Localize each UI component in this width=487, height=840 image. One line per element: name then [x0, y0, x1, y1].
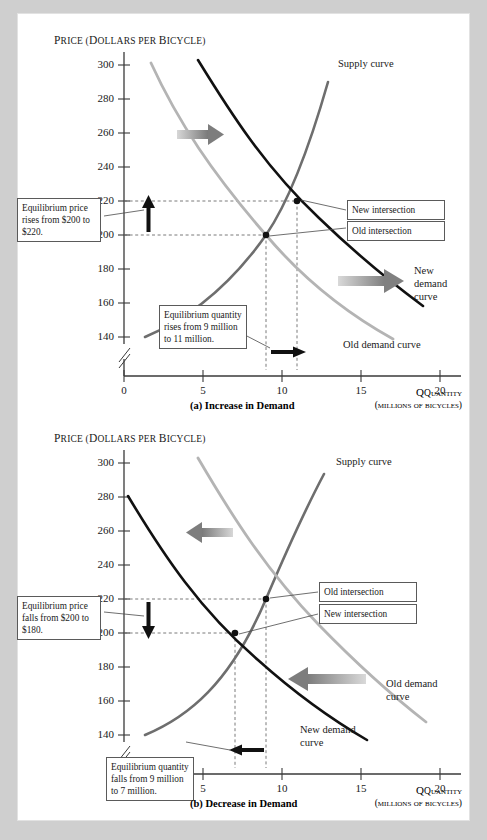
- panel-b-ytick-280: 280: [76, 490, 114, 503]
- panel-a-ytick-160: 160: [76, 296, 114, 309]
- panel-a-new-intersection-callout: New intersection: [347, 200, 445, 220]
- panel-b-old-intersection-callout: Old intersection: [319, 582, 417, 602]
- panel-a-ytick-300: 300: [76, 58, 114, 71]
- panel-b-guidelines: [124, 599, 266, 768]
- panel-decrease-in-demand: PRICE (DOLLARS PER BICYCLE): [18, 412, 469, 820]
- panel-a-xtick-5: 5: [183, 384, 223, 397]
- panel-b-supply-curve: [145, 474, 324, 735]
- panel-a-supply-curve-label: Supply curve: [338, 58, 394, 70]
- panel-b-ytick-300: 300: [76, 456, 114, 469]
- panel-b-caption: (b) Decrease in Demand: [190, 798, 297, 809]
- panel-b-quantity-decrease-arrow: [229, 745, 264, 756]
- panel-b-shift-arrow-lower: [288, 667, 366, 691]
- figure-page: PRICE (DOLLARS PER BICYCLE): [18, 14, 469, 820]
- panel-b-ytick-160: 160: [76, 694, 114, 707]
- panel-b-new-intersection-callout: New intersection: [319, 604, 417, 624]
- panel-b-quantity-axis-label: QQuantity (millions of bicycles): [348, 784, 462, 810]
- panel-increase-in-demand: PRICE (DOLLARS PER BICYCLE): [18, 14, 469, 414]
- panel-a-quantity-axis-label: QQuantity (millions of bicycles): [348, 386, 462, 412]
- page-frame: PRICE (DOLLARS PER BICYCLE): [0, 0, 487, 840]
- panel-b-ytick-180: 180: [76, 660, 114, 673]
- panel-a-quantity-increase-arrow: [271, 347, 306, 358]
- panel-b-old-equilibrium-point: [263, 596, 270, 603]
- panel-a-new-equilibrium-point: [294, 198, 301, 205]
- panel-a-old-equilibrium-point: [263, 232, 270, 239]
- panel-a-new-demand-curve: [198, 60, 423, 306]
- panel-a-xtick-10: 10: [262, 384, 302, 397]
- panel-a-shift-arrow-lower: [338, 269, 404, 293]
- panel-a-ytick-140: 140: [76, 330, 114, 343]
- panel-a-ytick-180: 180: [76, 262, 114, 275]
- panel-b-ytick-260: 260: [76, 524, 114, 537]
- panel-a-caption: (a) Increase in Demand: [190, 400, 295, 411]
- panel-b-price-change-callout: Equilibrium price falls from $200 to $18…: [17, 596, 101, 640]
- panel-b-new-equilibrium-point: [232, 630, 239, 637]
- panel-b-quantity-change-callout: Equilibrium quantity falls from 9 millio…: [106, 757, 194, 801]
- panel-b-ytick-240: 240: [76, 558, 114, 571]
- panel-a-quantity-change-callout: Equilibrium quantity rises from 9 millio…: [159, 305, 247, 349]
- panel-a-old-demand-curve-label: Old demand curve: [343, 339, 421, 351]
- panel-b-leader-lines: [104, 592, 318, 750]
- panel-a-ytick-240: 240: [76, 160, 114, 173]
- panel-b-price-decrease-arrow: [142, 602, 155, 639]
- panel-b-quantity-label-line1: Quantity: [424, 786, 462, 796]
- panel-b-ytick-140: 140: [76, 728, 114, 741]
- panel-b-supply-curve-label: Supply curve: [336, 456, 392, 468]
- panel-b-old-demand-curve-label: Old demand curve: [386, 677, 456, 703]
- panel-a-old-intersection-callout: Old intersection: [347, 221, 445, 241]
- panel-a-ytick-280: 280: [76, 92, 114, 105]
- panel-a-xtick-0: 0: [104, 384, 144, 397]
- panel-a-ytick-260: 260: [76, 126, 114, 139]
- panel-a-quantity-label-line1: Quantity: [424, 388, 462, 398]
- panel-a-price-change-callout: Equilibrium price rises from $200 to $22…: [17, 198, 101, 242]
- panel-b-xtick-10: 10: [262, 782, 302, 795]
- panel-b-shift-arrow-upper: [186, 522, 233, 543]
- panel-b-quantity-label-line2: (millions of bicycles): [348, 798, 462, 810]
- panel-a-quantity-label-line2: (millions of bicycles): [348, 400, 462, 412]
- panel-a-new-demand-curve-label: New demand curve: [414, 264, 464, 303]
- panel-b-new-demand-curve-label: New demand curve: [300, 723, 362, 749]
